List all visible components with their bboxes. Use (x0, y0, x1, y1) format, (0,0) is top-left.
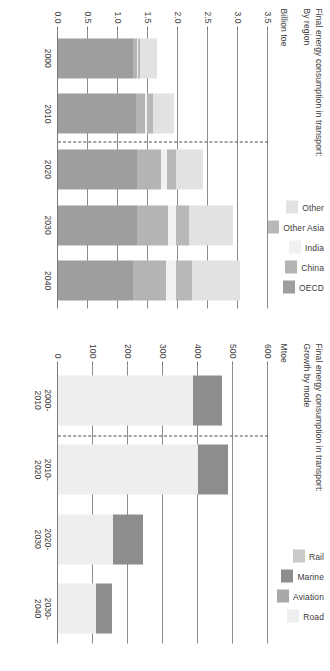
growth-by-mode-category-label: 2030- 2040 (33, 574, 53, 644)
by-region-legend-item[interactable]: Other (286, 200, 324, 213)
by-region-bar-segment (161, 149, 167, 189)
growth-by-mode-axis-tick (57, 361, 58, 365)
by-region-axis-tick (207, 26, 208, 30)
by-region-bar[interactable] (58, 38, 157, 78)
growth-by-mode-bar-segment (58, 375, 193, 425)
growth-by-mode-bar[interactable] (58, 583, 112, 633)
growth-by-mode-legend-label: Marine (297, 571, 324, 581)
growth-by-mode-axis-tick-label: 300 (158, 344, 168, 358)
growth-by-mode-axis-tick-label: 400 (193, 344, 203, 358)
by-region-legend-swatch-icon (286, 200, 298, 213)
growth-by-mode-bar-segment (198, 444, 228, 494)
growth-by-mode-legend-item[interactable]: Road (287, 609, 324, 622)
growth-by-mode-bar-segment (113, 514, 143, 564)
by-region-bar[interactable] (58, 260, 240, 300)
by-region-legend-swatch-icon (283, 280, 295, 293)
by-region-legend-label: OECD (299, 282, 324, 292)
by-region-bar-segment (145, 93, 147, 133)
by-region-axis-tick-label: 3.5 (263, 11, 273, 23)
by-region-axis-tick (177, 26, 178, 30)
by-region-bar-segment (58, 260, 133, 300)
by-region-bar[interactable] (58, 205, 233, 245)
growth-by-mode-bar[interactable] (58, 514, 143, 564)
by-region-category-label: 2040 (43, 252, 53, 308)
growth-by-mode-axis-tick-label: 600 (263, 344, 273, 358)
growth-by-mode-axis-tick (232, 361, 233, 365)
by-region-axis-tick (117, 26, 118, 30)
growth-by-mode-bar-segment (58, 444, 198, 494)
by-region-axis-tick-label: 3.0 (233, 11, 243, 23)
chart-unit-by-region: Billion toe (279, 8, 289, 46)
growth-by-mode-legend-item[interactable]: Marine (281, 569, 324, 582)
by-region-bar-segment (58, 149, 137, 189)
by-region-legend-label: India (305, 242, 324, 252)
by-region-axis-tick (267, 26, 268, 30)
by-region-bar-segment (58, 38, 133, 78)
by-region-gridline (267, 30, 268, 308)
by-region-legend-item[interactable]: India (289, 240, 324, 253)
by-region-bar-segment (147, 93, 153, 133)
growth-by-mode-axis-tick (92, 361, 93, 365)
by-region-legend-swatch-icon (267, 220, 279, 233)
by-region-legend-item[interactable]: China (285, 260, 324, 273)
by-region-bar-segment (176, 260, 192, 300)
by-region-bar-segment (192, 260, 240, 300)
by-region-legend-item[interactable]: Other Asia (267, 220, 324, 233)
by-region-axis-tick (57, 26, 58, 30)
growth-by-mode-legend-swatch-icon (281, 569, 293, 582)
by-region-bar-segment (189, 205, 233, 245)
by-region-bar-segment (140, 38, 157, 78)
by-region-bar-segment (137, 205, 168, 245)
by-region-legend-item[interactable]: OECD (283, 280, 324, 293)
by-region-bar[interactable] (58, 149, 203, 189)
by-region-category-label: 2010 (43, 86, 53, 142)
growth-by-mode-axis-tick (162, 361, 163, 365)
by-region-legend-swatch-icon (289, 240, 301, 253)
by-region-category-label: 2020 (43, 141, 53, 197)
by-region-history-forecast-divider (58, 141, 268, 142)
by-region-legend-label: Other Asia (283, 222, 324, 232)
by-region-axis-tick-label: 1.5 (143, 11, 153, 23)
growth-by-mode-bar-segment (58, 514, 113, 564)
by-region-bar-segment (133, 38, 137, 78)
plot-area-by-region: 0.00.51.01.52.02.53.03.52000201020202030… (58, 30, 268, 308)
chart-panel-by-region: Final energy consumption in transport: B… (0, 0, 330, 335)
by-region-bar-segment (58, 205, 137, 245)
growth-by-mode-bar[interactable] (58, 375, 223, 425)
growth-by-mode-category-label: 2020- 2030 (33, 504, 53, 574)
by-region-axis-tick (147, 26, 148, 30)
by-region-axis-tick (87, 26, 88, 30)
growth-by-mode-history-forecast-divider (58, 435, 268, 436)
growth-by-mode-bar[interactable] (58, 444, 228, 494)
by-region-bar-segment (153, 93, 174, 133)
growth-by-mode-legend-swatch-icon (293, 549, 305, 562)
by-region-bar-segment (137, 149, 161, 189)
growth-by-mode-bar-segment (96, 583, 112, 633)
by-region-bar-segment (176, 149, 203, 189)
legend-growth-by-mode: RailMarineAviationRoad (277, 549, 324, 622)
growth-by-mode-bar-segment (193, 375, 223, 425)
growth-by-mode-gridline (267, 365, 268, 643)
growth-by-mode-legend-item[interactable]: Rail (293, 549, 324, 562)
growth-by-mode-legend-item[interactable]: Aviation (277, 589, 324, 602)
chart-title-by-region: Final energy consumption in transport: B… (301, 8, 324, 156)
growth-by-mode-axis-tick-label: 0 (53, 353, 63, 358)
by-region-axis-tick-label: 2.5 (203, 11, 213, 23)
by-region-bar-segment (136, 93, 145, 133)
by-region-bar-segment (138, 38, 140, 78)
growth-by-mode-category-label: 2010- 2020 (33, 435, 53, 505)
by-region-axis-tick-label: 1.0 (113, 11, 123, 23)
rotated-figure-stage: Final energy consumption in transport: B… (0, 0, 330, 671)
by-region-bar-segment (168, 205, 176, 245)
growth-by-mode-axis-tick-label: 100 (88, 344, 98, 358)
growth-by-mode-axis-tick (197, 361, 198, 365)
growth-by-mode-legend-swatch-icon (287, 609, 299, 622)
chart-panels: Final energy consumption in transport: B… (0, 0, 330, 671)
by-region-category-label: 2000 (43, 30, 53, 86)
growth-by-mode-axis-tick-label: 200 (123, 344, 133, 358)
chart-unit-growth-by-mode: Mtoe (279, 343, 289, 362)
growth-by-mode-axis-tick (267, 361, 268, 365)
by-region-bar[interactable] (58, 93, 174, 133)
by-region-axis-tick-label: 2.0 (173, 11, 183, 23)
by-region-category-label: 2030 (43, 197, 53, 253)
